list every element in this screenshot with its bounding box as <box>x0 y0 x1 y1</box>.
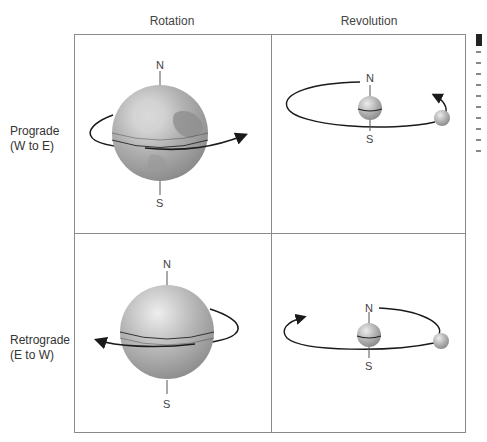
cell-prograde-revolution: N S <box>272 35 468 233</box>
earth-prograde-rotation-illustration: N S <box>75 35 271 233</box>
south-pole-label: S <box>366 133 373 145</box>
north-pole-label: N <box>366 72 374 84</box>
north-pole-label: N <box>365 302 373 314</box>
cell-retrograde-rotation: N S <box>75 234 271 432</box>
sun-sphere-icon <box>357 323 381 347</box>
row-label-prograde: Prograde (W to E) <box>10 124 59 154</box>
row-label-prograde-direction: (W to E) <box>10 139 59 154</box>
orbit-retrograde-revolution-illustration: N S <box>272 234 468 432</box>
row-label-prograde-title: Prograde <box>10 124 59 139</box>
row-label-retrograde-title: Retrograde <box>10 333 70 348</box>
south-pole-label: S <box>163 398 170 410</box>
cell-retrograde-revolution: N S <box>272 234 468 432</box>
row-label-retrograde: Retrograde (E to W) <box>10 333 70 363</box>
earth-retrograde-rotation-illustration: N S <box>75 234 271 432</box>
cropped-side-text <box>474 34 487 194</box>
cell-prograde-rotation: N S <box>75 35 271 233</box>
sun-sphere-icon <box>358 96 382 120</box>
planet-sphere-icon <box>433 333 449 349</box>
diagram-grid: N S N S <box>74 34 466 433</box>
south-pole-label: S <box>156 197 163 209</box>
planet-globe-icon <box>120 285 214 379</box>
row-label-retrograde-direction: (E to W) <box>10 348 70 363</box>
column-header-rotation: Rotation <box>74 14 270 28</box>
north-pole-label: N <box>163 258 171 270</box>
north-pole-label: N <box>156 59 164 71</box>
planet-sphere-icon <box>434 110 450 126</box>
orbit-prograde-revolution-illustration: N S <box>272 35 468 233</box>
south-pole-label: S <box>365 360 372 372</box>
column-header-revolution: Revolution <box>271 14 467 28</box>
